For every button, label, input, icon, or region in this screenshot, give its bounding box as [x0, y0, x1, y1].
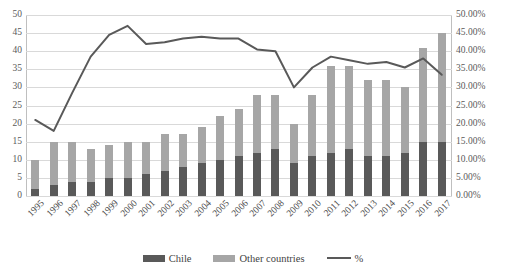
y-tick-left: 40 [0, 46, 22, 56]
y-tick-left: 0 [0, 191, 22, 201]
y-tick-right: 0.00% [456, 191, 504, 201]
legend-color-swatch-icon [213, 255, 235, 262]
y-tick-left: 35 [0, 64, 22, 74]
y-tick-right: 45.00% [456, 28, 504, 38]
y-tick-left: 15 [0, 137, 22, 147]
legend-item[interactable]: Other countries [213, 253, 304, 264]
y-axis-left: 05101520253035404550 [0, 0, 24, 270]
plot-area [26, 15, 452, 196]
y-tick-left: 25 [0, 101, 22, 111]
y-tick-left: 50 [0, 10, 22, 20]
y-tick-left: 20 [0, 119, 22, 129]
y-tick-right: 30.00% [456, 82, 504, 92]
chart-container: 05101520253035404550 0.00%5.00%10.00%15.… [0, 0, 506, 270]
y-axis-right: 0.00%5.00%10.00%15.00%20.00%25.00%30.00%… [456, 0, 506, 270]
y-tick-left: 10 [0, 155, 22, 165]
legend-label: Chile [169, 253, 192, 264]
y-tick-right: 20.00% [456, 119, 504, 129]
y-tick-right: 25.00% [456, 101, 504, 111]
y-tick-right: 35.00% [456, 64, 504, 74]
y-tick-right: 5.00% [456, 173, 504, 183]
y-tick-right: 40.00% [456, 46, 504, 56]
chart-legend: ChileOther countries% [0, 250, 506, 266]
legend-item[interactable]: Chile [143, 253, 192, 264]
gridline [26, 196, 452, 197]
x-axis-labels: 1995199619971998199920002001200220032004… [26, 198, 452, 258]
y-tick-left: 45 [0, 28, 22, 38]
legend-label: Other countries [239, 253, 304, 264]
legend-item[interactable]: % [327, 253, 364, 264]
legend-color-swatch-icon [143, 255, 165, 262]
y-tick-right: 50.00% [456, 10, 504, 20]
y-tick-right: 10.00% [456, 155, 504, 165]
y-tick-left: 5 [0, 173, 22, 183]
legend-label: % [355, 253, 364, 264]
line-series-percent [26, 15, 452, 196]
y-tick-left: 30 [0, 82, 22, 92]
y-tick-right: 15.00% [456, 137, 504, 147]
legend-line-swatch-icon [327, 257, 351, 259]
